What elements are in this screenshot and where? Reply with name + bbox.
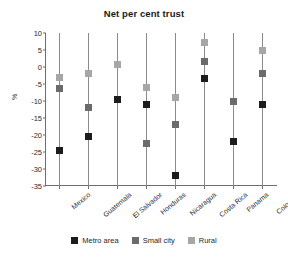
y-axis-tick-mark [43, 50, 46, 51]
range-line [59, 33, 60, 186]
data-point-metro-area [85, 133, 92, 140]
x-axis-tick-mark [146, 186, 147, 189]
x-axis-tick-mark [204, 186, 205, 189]
plot-area: 1050-5-10-15-20-25-30-35 [45, 33, 277, 186]
x-axis-line [45, 185, 277, 186]
y-axis-tick-label: -15 [12, 114, 42, 123]
y-axis-tick-mark [43, 33, 46, 34]
legend-swatch-icon [188, 237, 195, 244]
x-axis-tick-label: El Salvador [131, 191, 163, 219]
y-axis-tick-label: -30 [12, 165, 42, 174]
data-point-rural [143, 84, 150, 91]
x-axis-tick-mark [117, 186, 118, 189]
data-point-small-city [143, 140, 150, 147]
y-axis-tick-mark [43, 84, 46, 85]
data-point-rural [172, 94, 179, 101]
y-axis-line [45, 33, 46, 186]
legend-item: Small city [132, 236, 175, 245]
y-axis-tick-label: -5 [12, 80, 42, 89]
data-point-small-city [172, 121, 179, 128]
x-axis-tick-label: Panama [245, 191, 269, 213]
x-axis-tick-mark [233, 186, 234, 189]
chart-title: Net per cent trust [0, 8, 288, 19]
data-point-metro-area [114, 96, 121, 103]
range-line [117, 33, 118, 186]
y-axis-tick-label: -10 [12, 97, 42, 106]
data-point-metro-area [56, 147, 63, 154]
y-axis-tick-mark [43, 67, 46, 68]
y-axis-tick-label: -35 [12, 182, 42, 191]
y-axis-tick-mark [43, 135, 46, 136]
data-point-small-city [56, 85, 63, 92]
x-axis-tick-label: Costa Rica [218, 191, 249, 218]
y-axis-tick-label: 5 [12, 46, 42, 55]
legend-label: Metro area [82, 236, 118, 245]
data-point-small-city [230, 98, 237, 105]
x-axis-tick-label: Guatemala [102, 191, 133, 218]
y-axis-tick-label: -25 [12, 148, 42, 157]
x-axis-tick-label: Colombia [274, 191, 288, 215]
y-axis-tick-label: -20 [12, 131, 42, 140]
data-point-small-city [85, 104, 92, 111]
range-line [204, 33, 205, 186]
range-line [233, 33, 234, 186]
data-point-rural [56, 74, 63, 81]
legend-label: Rural [199, 236, 217, 245]
legend-item: Rural [188, 236, 217, 245]
legend-label: Small city [143, 236, 175, 245]
data-point-rural [85, 70, 92, 77]
legend-swatch-icon [132, 237, 139, 244]
range-line [175, 33, 176, 186]
x-axis-tick-label: Nicaragua [188, 191, 217, 217]
data-point-metro-area [201, 75, 208, 82]
x-axis-tick-label: Mexico [70, 191, 91, 211]
y-axis-tick-mark [43, 152, 46, 153]
data-point-metro-area [172, 172, 179, 179]
chart-container: Net per cent trust % 1050-5-10-15-20-25-… [0, 0, 288, 259]
y-axis-tick-mark [43, 169, 46, 170]
data-point-rural [201, 39, 208, 46]
range-line [146, 33, 147, 186]
y-axis-tick-label: 0 [12, 63, 42, 72]
data-point-metro-area [143, 101, 150, 108]
data-point-rural [259, 47, 266, 54]
data-point-metro-area [230, 138, 237, 145]
legend-item: Metro area [71, 236, 118, 245]
chart-legend: Metro areaSmall cityRural [0, 236, 288, 245]
data-point-small-city [201, 58, 208, 65]
x-axis-tick-mark [262, 186, 263, 189]
y-axis-tick-mark [43, 101, 46, 102]
x-axis-tick-mark [88, 186, 89, 189]
x-axis-tick-mark [175, 186, 176, 189]
y-axis-tick-mark [43, 118, 46, 119]
data-point-rural [114, 61, 121, 68]
data-point-metro-area [259, 101, 266, 108]
y-axis-tick-label: 10 [12, 29, 42, 38]
y-axis-tick-mark [43, 186, 46, 187]
data-point-small-city [259, 70, 266, 77]
range-line [262, 33, 263, 186]
legend-swatch-icon [71, 237, 78, 244]
x-axis-tick-mark [59, 186, 60, 189]
